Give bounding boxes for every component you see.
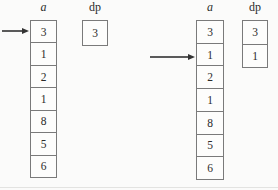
array-cell: 8 — [31, 110, 56, 132]
dp-cell: 1 — [243, 44, 267, 68]
array-cell: 2 — [197, 65, 223, 88]
page-bottom-rule — [0, 187, 278, 188]
array-cell: 1 — [31, 87, 56, 109]
array-cell: 1 — [31, 42, 56, 64]
diagram-canvas: a 3 1 2 1 8 5 6 dp 3 a 3 1 2 1 8 5 6 dp … — [0, 0, 278, 190]
arrow-head-icon — [22, 28, 29, 34]
dp-box-right: 3 1 — [242, 20, 268, 68]
array-cell: 1 — [197, 43, 223, 66]
dp-cell: 3 — [243, 21, 267, 44]
dp-label-right: dp — [242, 0, 268, 14]
array-cell: 2 — [31, 65, 56, 87]
arrow-head-icon — [188, 54, 195, 60]
pointer-arrow-left — [2, 27, 29, 35]
array-cell: 6 — [197, 156, 223, 179]
pointer-arrow-right — [150, 53, 195, 61]
array-right: 3 1 2 1 8 5 6 — [196, 20, 224, 180]
array-cell: 3 — [197, 21, 223, 43]
array-left: 3 1 2 1 8 5 6 — [30, 20, 57, 178]
dp-cell: 3 — [83, 21, 107, 45]
arrow-shaft — [2, 30, 22, 32]
array-cell: 3 — [31, 21, 56, 42]
array-label-left: a — [30, 0, 57, 14]
array-label-right: a — [196, 0, 224, 14]
dp-box-left: 3 — [82, 20, 108, 46]
dp-label-left: dp — [82, 0, 108, 14]
array-cell: 1 — [197, 88, 223, 111]
array-cell: 5 — [31, 132, 56, 154]
array-cell: 5 — [197, 134, 223, 157]
array-cell: 6 — [31, 155, 56, 177]
arrow-shaft — [150, 56, 188, 58]
array-cell: 8 — [197, 111, 223, 134]
